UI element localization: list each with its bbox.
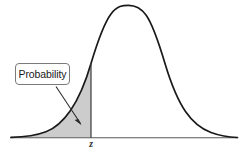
normal-distribution-figure: Probability z (0, 0, 248, 157)
probability-label: Probability (19, 69, 67, 80)
probability-callout-box: Probability (15, 63, 70, 85)
